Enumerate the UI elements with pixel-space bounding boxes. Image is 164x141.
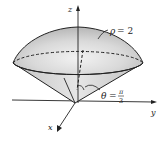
theta-numerator: π [118, 88, 124, 96]
theta-denominator: 3 [119, 97, 123, 105]
theta-symbol: θ [101, 91, 107, 101]
y-axis [12, 100, 157, 104]
x-axis [57, 103, 75, 132]
z-axis-label: z [67, 5, 73, 14]
spherical-cone-diagram: z y x ρ = 2 θ = π 3 [0, 0, 164, 141]
theta-equals: = [109, 91, 117, 101]
rho-equation: = 2 [117, 26, 133, 36]
y-axis-label: y [150, 108, 156, 117]
x-axis-label: x [48, 123, 53, 132]
rho-symbol: ρ [109, 26, 116, 36]
